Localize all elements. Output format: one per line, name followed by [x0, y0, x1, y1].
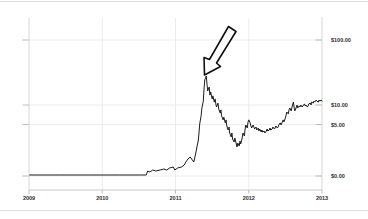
- y-tick-label: $5.00: [331, 122, 345, 128]
- y-tick-label: $0.00: [331, 173, 345, 179]
- y-tick-label: $10.00: [331, 102, 348, 108]
- x-tick-label: 2013: [316, 195, 328, 201]
- x-tick-label: 2011: [170, 195, 182, 201]
- y-tick-label: $100.00: [331, 37, 351, 43]
- bottom-divider: [0, 210, 368, 211]
- x-tick-label: 2010: [96, 195, 108, 201]
- annotation-arrow: [204, 27, 236, 76]
- x-tick-label: 2009: [23, 195, 35, 201]
- price-history-chart: 20092010201120122013$100.00$10.00$5.00$0…: [0, 0, 368, 219]
- x-tick-label: 2012: [243, 195, 255, 201]
- page: 20092010201120122013$100.00$10.00$5.00$0…: [0, 0, 368, 219]
- chart-canvas: 20092010201120122013$100.00$10.00$5.00$0…: [0, 0, 368, 219]
